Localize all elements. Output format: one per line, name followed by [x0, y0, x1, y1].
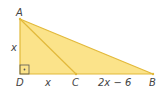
label-CB: 2x − 6	[98, 77, 131, 88]
point-A	[19, 18, 21, 20]
triangle-diagram: A D C B x x 2x − 6	[0, 0, 163, 89]
label-C: C	[72, 77, 79, 88]
label-D: D	[16, 77, 24, 88]
point-B	[152, 73, 154, 75]
label-A: A	[15, 7, 23, 18]
point-C	[75, 73, 77, 75]
label-B: B	[149, 77, 156, 88]
label-AD: x	[10, 42, 17, 53]
triangle-ABD	[20, 19, 153, 74]
label-DC: x	[44, 77, 51, 88]
right-angle-dot	[24, 69, 26, 71]
